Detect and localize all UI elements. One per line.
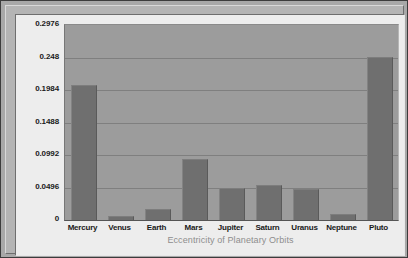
y-axis-tick-label: 0.1488 [15,118,59,126]
x-axis-label-pluto: Pluto [361,223,397,232]
y-axis-tick-label: 0.0992 [15,150,59,158]
y-axis-tick-label: 0 [15,215,59,223]
bar [256,185,282,221]
y-axis-tick-label: 0.2976 [15,20,59,28]
y-axis-tick-label: 0.1984 [15,85,59,93]
bar [367,57,393,220]
x-axis-label-saturn: Saturn [250,223,286,232]
plot-area [64,24,399,221]
bar [108,216,134,220]
x-axis-label-neptune: Neptune [324,223,360,232]
x-axis-label-mars: Mars [176,223,212,232]
y-axis-tick-label: 0.248 [15,53,59,61]
chart-canvas: 00.04960.09920.14880.19840.2480.2976 Mer… [15,14,405,256]
x-axis-label-mercury: Mercury [65,223,101,232]
x-axis-label-uranus: Uranus [287,223,323,232]
x-axis-label-venus: Venus [102,223,138,232]
bar [71,85,97,220]
chart-window: 00.04960.09920.14880.19840.2480.2976 Mer… [0,0,408,258]
x-axis-category-labels: MercuryVenusEarthMarsJupiterSaturnUranus… [64,223,397,235]
y-axis-tick-label: 0.0496 [15,183,59,191]
bar [145,209,171,220]
bar [293,189,319,220]
bar [219,188,245,220]
bar-series [65,25,398,220]
x-axis-label-earth: Earth [139,223,175,232]
x-axis-label-jupiter: Jupiter [213,223,249,232]
bar [182,159,208,220]
x-axis-title: Eccentricity of Planetary Orbits [64,235,397,245]
y-axis-tick-labels: 00.04960.09920.14880.19840.2480.2976 [16,15,62,257]
chart-outer-bevel: 00.04960.09920.14880.19840.2480.2976 Mer… [5,5,404,254]
bar [330,214,356,220]
